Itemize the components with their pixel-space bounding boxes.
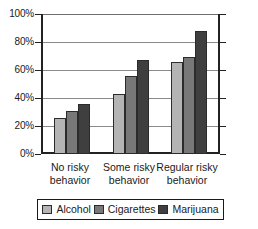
y-axis-label-20: 20%: [0, 121, 34, 131]
legend-entry-marijuana: Marijuana: [158, 204, 218, 215]
bar: [125, 76, 137, 154]
bar: [66, 111, 78, 154]
legend: Alcohol Cigarettes Marijuana: [37, 199, 224, 220]
bar-chart: 100% 80% 60% 40% 20% 0% No risky behavio…: [0, 0, 258, 229]
legend-entry-alcohol: Alcohol: [42, 204, 90, 215]
y-axis-label-60: 60%: [0, 65, 34, 75]
legend-label-cigarettes: Cigarettes: [108, 204, 156, 215]
bar: [195, 31, 207, 154]
x-axis-label-line-1: Regular risky: [144, 161, 230, 174]
legend-label-marijuana: Marijuana: [172, 204, 218, 215]
axis-tick-20: [220, 126, 226, 127]
y-axis-label-100: 100%: [0, 9, 34, 19]
axis-tick-20: [35, 126, 41, 127]
axis-tick-0: [220, 154, 226, 155]
bar-group: [171, 14, 207, 154]
axis-tick-60: [220, 70, 226, 71]
bar-group: [54, 14, 90, 154]
axis-tick-40: [220, 98, 226, 99]
x-axis-label-regular-risky-behavior: Regular risky behavior: [144, 161, 230, 186]
axis-tick-80: [35, 42, 41, 43]
axis-tick-100: [220, 14, 226, 15]
legend-label-alcohol: Alcohol: [56, 204, 90, 215]
axis-tick-0: [35, 154, 41, 155]
x-axis-label-line-2: behavior: [144, 174, 230, 187]
legend-swatch-alcohol: [42, 205, 52, 214]
bar: [54, 118, 66, 154]
y-axis-label-40: 40%: [0, 93, 34, 103]
bar: [183, 57, 195, 154]
legend-swatch-cigarettes: [94, 205, 104, 214]
bar: [171, 62, 183, 154]
legend-swatch-marijuana: [158, 205, 168, 214]
axis-tick-60: [35, 70, 41, 71]
axis-tick-40: [35, 98, 41, 99]
plot-area: [41, 14, 220, 154]
legend-entry-cigarettes: Cigarettes: [94, 204, 156, 215]
y-axis-label-0: 0%: [0, 149, 34, 159]
axis-tick-80: [220, 42, 226, 43]
bar-group: [113, 14, 149, 154]
bar: [113, 94, 125, 154]
bar: [78, 104, 90, 154]
y-axis-label-80: 80%: [0, 37, 34, 47]
axis-tick-100: [35, 14, 41, 15]
bar: [137, 60, 149, 154]
